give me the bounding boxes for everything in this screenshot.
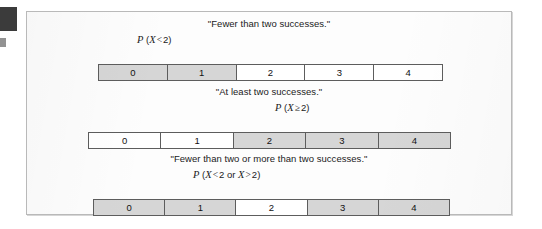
probability-variable: X [205,169,211,180]
outcome-cell-0: 0 [89,133,161,148]
probability-expression-row: P (X<2 or X>2) [27,168,511,181]
outcome-bar: 0 1 2 3 4 [98,64,443,81]
probability-operator: < [156,35,163,45]
outcome-cell-2: 2 [234,133,306,148]
probability-close-paren: ) [306,102,309,113]
probability-panel-fewer-or-more-than-two: "Fewer than two or more than two success… [27,153,511,181]
probability-panel-fewer-than-two: "Fewer than two successes." P (X<2) 0 1 … [27,18,511,46]
probability-close-paren: ) [168,34,171,45]
outcome-cell-0: 0 [99,65,168,80]
outcome-cell-1: 1 [165,200,236,215]
probability-variable: X [287,102,293,113]
panel-title: "At least two successes." [27,86,511,98]
outcome-cell-3: 3 [305,65,374,80]
probability-expression: P (X≥2) [275,101,309,115]
figure-container: "Fewer than two successes." P (X<2) 0 1 … [26,11,512,215]
outcome-cell-4: 4 [379,200,449,215]
probability-operator: ≥ [294,103,301,113]
outcome-bar: 0 1 2 3 4 [88,132,451,149]
probability-variable: X [149,34,155,45]
probability-expression-row: P (X<2) [27,33,511,46]
outcome-cell-4: 4 [374,65,442,80]
outcome-cell-4: 4 [379,133,450,148]
probability-operator: < [212,170,219,180]
probability-operator-2: > [244,170,251,180]
outcome-cell-1: 1 [161,133,233,148]
page-margin-marker [0,7,17,31]
panel-title: "Fewer than two successes." [27,18,511,30]
outcome-cell-1: 1 [168,65,237,80]
probability-close-paren: ) [257,169,260,180]
panel-title: "Fewer than two or more than two success… [27,153,511,165]
outcome-bar: 0 1 2 3 4 [93,199,450,216]
outcome-cell-3: 3 [308,200,379,215]
outcome-cell-2: 2 [237,65,306,80]
probability-expression-row: P (X≥2) [27,101,511,114]
page-margin-glyph [0,38,6,47]
outcome-cell-2: 2 [236,200,307,215]
probability-expression: P (X<2) [137,33,171,47]
outcome-cell-0: 0 [94,200,165,215]
probability-expression: P (X<2 or X>2) [193,168,260,182]
outcome-cell-3: 3 [306,133,378,148]
probability-panel-at-least-two: "At least two successes." P (X≥2) 0 1 2 … [27,86,511,114]
